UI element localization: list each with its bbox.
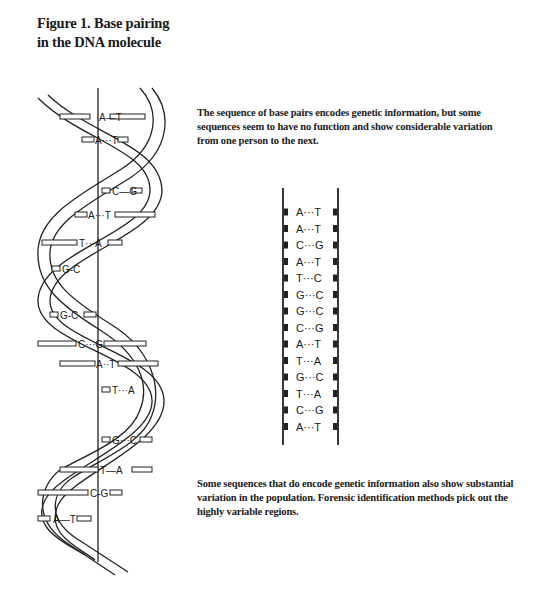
ladder-backbone-marker xyxy=(284,374,288,381)
ladder-backbone-marker xyxy=(284,341,288,348)
ladder-pair-label: G···C xyxy=(296,371,324,383)
helix-pair-label: A···T xyxy=(95,135,118,146)
ladder-pair-label: T···C xyxy=(296,272,322,284)
ladder-row: T···A xyxy=(284,388,337,400)
helix-pair-label: A··T xyxy=(96,359,115,370)
ladder-backbone-marker xyxy=(333,291,337,298)
helix-pair-label: A···T xyxy=(88,210,111,221)
ladder-backbone-marker xyxy=(284,324,288,331)
helix-pair-label: T···A xyxy=(79,238,102,249)
ladder-backbone-marker xyxy=(333,242,337,249)
ladder-pair-label: T···A xyxy=(296,388,322,400)
ladder-backbone-marker xyxy=(284,209,288,216)
helix-pair-label: T···A xyxy=(112,385,135,396)
ladder-backbone-marker xyxy=(284,407,288,414)
ladder-row: T···C xyxy=(284,272,337,284)
ladder-backbone-marker xyxy=(333,225,337,232)
ladder-pair-label: C···G xyxy=(296,239,324,251)
ladder-row: A···T xyxy=(284,206,337,218)
ladder-pair-label: C···G xyxy=(296,322,324,334)
ladder-backbone-marker xyxy=(284,258,288,265)
helix-pair-label: C···G xyxy=(78,339,103,350)
ladder-pair-label: A···T xyxy=(296,223,321,235)
ladder-backbone-marker xyxy=(333,324,337,331)
ladder-backbone-marker xyxy=(284,225,288,232)
ladder-backbone-marker xyxy=(333,374,337,381)
helix-pair-label: A—T xyxy=(53,514,76,525)
ladder-backbone-marker xyxy=(284,390,288,397)
helix-pair-label: C-G xyxy=(90,488,109,499)
helix-pair-label: T—A xyxy=(100,465,123,476)
ladder-row: G···C xyxy=(284,305,337,317)
helix-pair-labels: A—T A···T C—G A···T T···A G-C G-C C···G … xyxy=(53,112,137,525)
ladder-row: A···T xyxy=(284,223,337,235)
helix-pair-label: G-C xyxy=(62,264,80,275)
helix-pair-label: G···C xyxy=(112,435,137,446)
ladder-backbone-marker xyxy=(284,275,288,282)
ladder-backbone-marker xyxy=(333,308,337,315)
ladder-pair-label: A···T xyxy=(296,256,321,268)
ladder-row: A···T xyxy=(284,421,337,433)
ladder-backbone-marker xyxy=(333,423,337,430)
ladder-backbone-marker xyxy=(333,275,337,282)
helix-pair-label: G-C xyxy=(60,310,78,321)
ladder-backbone-marker xyxy=(333,258,337,265)
ladder-row: G···C xyxy=(284,371,337,383)
ladder-row: C···G xyxy=(284,239,337,251)
ladder-backbone-marker xyxy=(333,407,337,414)
ladder-backbone-marker xyxy=(284,242,288,249)
ladder-pair-label: A···T xyxy=(296,421,321,433)
ladder-backbone-marker xyxy=(284,357,288,364)
dna-helix-illustration: A—T A···T C—G A···T T···A G-C G-C C···G … xyxy=(0,0,200,593)
ladder-pair-label: G···C xyxy=(296,305,324,317)
ladder-backbone-marker xyxy=(284,423,288,430)
ladder-row: C···G xyxy=(284,322,337,334)
ladder-backbone-marker xyxy=(333,357,337,364)
caption-top: The sequence of base pairs encodes genet… xyxy=(197,106,497,148)
ladder-backbone-marker xyxy=(333,341,337,348)
helix-pair-label: C—G xyxy=(112,186,137,197)
ladder-row: T···A xyxy=(284,355,337,367)
ladder-pair-label: C···G xyxy=(296,404,324,416)
ladder-backbone-marker xyxy=(284,308,288,315)
ladder-backbone-marker xyxy=(333,209,337,216)
helix-pair-label: A—T xyxy=(99,112,122,123)
ladder-backbone-marker xyxy=(333,390,337,397)
ladder-pair-label: T···A xyxy=(296,355,322,367)
ladder-pair-label: A···T xyxy=(296,338,321,350)
ladder-backbone-marker xyxy=(284,291,288,298)
ladder-row: A···T xyxy=(284,338,337,350)
ladder-pair-label: G···C xyxy=(296,289,324,301)
caption-bottom: Some sequences that do encode genetic in… xyxy=(197,477,517,519)
ladder-pair-label: A···T xyxy=(296,206,321,218)
ladder-row: G···C xyxy=(284,289,337,301)
ladder-row: A···T xyxy=(284,256,337,268)
ladder-row: C···G xyxy=(284,404,337,416)
